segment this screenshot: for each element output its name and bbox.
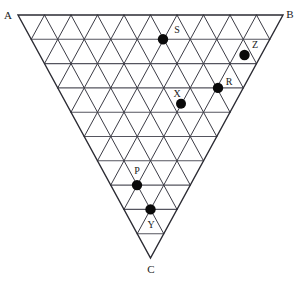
point-label-p: P [134, 165, 140, 176]
lattice-point-x [176, 99, 186, 109]
grid-line-left-diagonal [151, 15, 217, 137]
lattice-point-z [239, 50, 249, 60]
vertex-label-b: B [286, 8, 293, 20]
grid-line-right-diagonal [31, 15, 44, 39]
grid-line-left-diagonal [204, 15, 244, 88]
lattice-point-r [213, 83, 223, 93]
point-label-s: S [174, 24, 180, 35]
lattice-point-y [145, 204, 155, 214]
lattice-point-s [158, 34, 168, 44]
point-label-z: Z [252, 39, 258, 50]
point-label-x: X [173, 88, 181, 99]
triangle-vertex-labels: ABC [4, 8, 294, 275]
point-label-y: Y [147, 219, 154, 230]
grid-line-right-diagonal [58, 15, 98, 88]
vertex-label-c: C [147, 263, 154, 275]
vertex-label-a: A [4, 9, 12, 21]
lattice-grid [31, 15, 270, 234]
triangular-lattice-figure: SZRXPY ABC [0, 0, 299, 281]
grid-line-left-diagonal [257, 15, 270, 39]
point-label-r: R [226, 76, 233, 87]
grid-line-right-diagonal [84, 15, 150, 137]
lattice-diagram: SZRXPY ABC [0, 0, 299, 281]
grid-line-right-diagonal [111, 15, 204, 185]
grid-line-left-diagonal [45, 15, 164, 234]
grid-line-right-diagonal [137, 15, 256, 234]
grid-line-left-diagonal [98, 15, 191, 185]
lattice-point-p [132, 180, 142, 190]
